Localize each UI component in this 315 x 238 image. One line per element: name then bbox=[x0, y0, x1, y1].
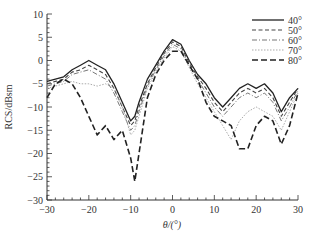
y-tick-label: −5 bbox=[32, 78, 43, 89]
y-tick-label: −25 bbox=[27, 171, 43, 182]
y-tick-label: 5 bbox=[38, 32, 43, 43]
y-axis-label: RCS/dBsm bbox=[3, 84, 14, 129]
x-tick-label: 30 bbox=[293, 204, 303, 215]
x-tick-label: 10 bbox=[209, 204, 219, 215]
x-tick-label: −20 bbox=[81, 204, 97, 215]
y-tick-label: 0 bbox=[38, 55, 43, 66]
rcs-line-chart: 1050−5−10−15−20−25−30−30−20−100102030 40… bbox=[0, 0, 315, 238]
series-line-3 bbox=[47, 47, 298, 140]
legend-label: 80° bbox=[288, 55, 302, 66]
series-line-2 bbox=[47, 44, 298, 130]
x-tick-label: 0 bbox=[170, 204, 175, 215]
x-tick-label: 20 bbox=[251, 204, 261, 215]
series-line-1 bbox=[47, 42, 298, 126]
y-tick-label: −10 bbox=[27, 102, 43, 113]
axes: 1050−5−10−15−20−25−30−30−20−100102030 bbox=[27, 9, 303, 216]
legend: 40°50°60°70°80° bbox=[252, 15, 302, 66]
y-tick-label: 10 bbox=[33, 9, 43, 20]
y-tick-label: −15 bbox=[27, 125, 43, 136]
series-lines bbox=[47, 40, 298, 182]
x-tick-label: −30 bbox=[39, 204, 55, 215]
x-axis-label: θ/(°) bbox=[163, 219, 182, 231]
y-tick-label: −20 bbox=[27, 148, 43, 159]
x-tick-label: −10 bbox=[123, 204, 139, 215]
